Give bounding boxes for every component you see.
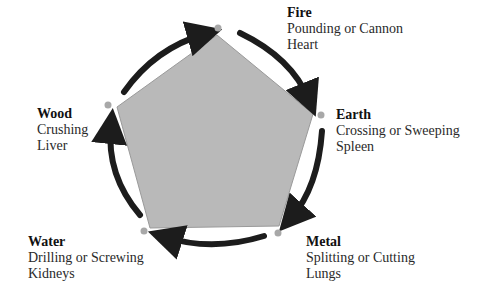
vertex-dot-metal (275, 230, 282, 237)
vertex-dot-wood (105, 102, 112, 109)
technique-text: Pounding or Cannon (287, 21, 403, 37)
label-water: Water Drilling or Screwing Kidneys (28, 234, 144, 282)
element-name: Water (28, 234, 144, 250)
organ-text: Liver (37, 138, 88, 154)
five-elements-diagram: Fire Pounding or Cannon Heart Earth Cros… (0, 0, 479, 303)
label-fire: Fire Pounding or Cannon Heart (287, 5, 403, 53)
technique-text: Crushing (37, 122, 88, 138)
organ-text: Spleen (336, 139, 460, 155)
vertex-dot-earth (318, 112, 325, 119)
organ-text: Heart (287, 37, 403, 53)
label-wood: Wood Crushing Liver (37, 106, 88, 154)
technique-text: Drilling or Screwing (28, 250, 144, 266)
technique-text: Splitting or Cutting (306, 250, 415, 266)
label-earth: Earth Crossing or Sweeping Spleen (336, 107, 460, 155)
vertex-dot-fire (215, 25, 222, 32)
label-metal: Metal Splitting or Cutting Lungs (306, 234, 415, 282)
technique-text: Crossing or Sweeping (336, 123, 460, 139)
organ-text: Kidneys (28, 266, 144, 282)
element-name: Wood (37, 106, 88, 122)
element-name: Fire (287, 5, 403, 21)
arrow-metal-to-water (165, 236, 264, 244)
element-name: Metal (306, 234, 415, 250)
element-name: Earth (336, 107, 460, 123)
organ-text: Lungs (306, 266, 415, 282)
